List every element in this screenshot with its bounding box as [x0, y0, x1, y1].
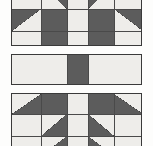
bottom-block-cell-r1-c0 [12, 114, 41, 136]
bottom-block-grid [12, 94, 141, 146]
bottom-block-seam-v0 [41, 94, 42, 146]
top-block-seam-h0 [12, 9, 141, 10]
bottom-block-seam-h0 [12, 114, 141, 115]
top-block-cell-r1-c1 [41, 9, 67, 31]
top-block-grid [12, 0, 141, 45]
bottom-block-cell-r2-c1 [41, 136, 67, 146]
bottom-block-cell-r2-c2 [67, 136, 88, 146]
top-block-cell-r2-c1 [41, 31, 67, 46]
bottom-block-cell-r1-c2 [67, 114, 88, 136]
bottom-block-cell-r0-c4 [114, 94, 142, 114]
top-block-seam-h1 [12, 31, 141, 32]
middle-sashing [11, 54, 142, 85]
top-block-cell-r0-c0 [12, 0, 41, 9]
middle-sashing-seam-v1 [88, 55, 89, 84]
top-block-cell-r2-c0 [12, 31, 41, 46]
bottom-block-seam-v3 [114, 94, 115, 146]
top-block-cell-r2-c4 [114, 31, 142, 46]
top-block-seam-v2 [88, 0, 89, 45]
top-block-cell-r1-c3 [88, 9, 114, 31]
top-block-cell-r1-c4 [114, 9, 142, 31]
bottom-block-cell-r0-c1 [41, 94, 67, 114]
quilt-strip-image [0, 0, 153, 146]
bottom-block-cell-r1-c1 [41, 114, 67, 136]
middle-sashing-grid [12, 55, 141, 84]
bottom-block-cell-r1-c4 [114, 114, 142, 136]
top-block-seam-v1 [67, 0, 68, 45]
top-block-cell-r1-c2 [67, 9, 88, 31]
bottom-block [11, 93, 142, 146]
top-block-seam-v0 [41, 0, 42, 45]
bottom-block-cell-r0-c0 [12, 94, 41, 114]
top-block-seam-v3 [114, 0, 115, 45]
top-block-cell-r2-c3 [88, 31, 114, 46]
top-block-cell-r2-c2 [67, 31, 88, 46]
top-block-cell-r0-c1 [41, 0, 67, 9]
top-block-cell-r1-c0 [12, 9, 41, 31]
top-block [11, 0, 142, 46]
top-block-cell-r0-c4 [114, 0, 142, 9]
top-block-cell-r0-c3 [88, 0, 114, 9]
bottom-block-cell-r0-c2 [67, 94, 88, 114]
bottom-block-seam-v1 [67, 94, 68, 146]
bottom-block-cell-r2-c3 [88, 136, 114, 146]
middle-sashing-cell-r0-c0 [12, 55, 67, 84]
top-block-cell-r0-c2 [67, 0, 88, 9]
bottom-block-cell-r2-c4 [114, 136, 142, 146]
bottom-block-seam-v2 [88, 94, 89, 146]
middle-sashing-seam-v0 [67, 55, 68, 84]
bottom-block-cell-r1-c3 [88, 114, 114, 136]
bottom-block-cell-r0-c3 [88, 94, 114, 114]
middle-sashing-cell-r0-c2 [88, 55, 142, 84]
middle-sashing-cell-r0-c1 [67, 55, 88, 84]
bottom-block-seam-h1 [12, 136, 141, 137]
bottom-block-cell-r2-c0 [12, 136, 41, 146]
